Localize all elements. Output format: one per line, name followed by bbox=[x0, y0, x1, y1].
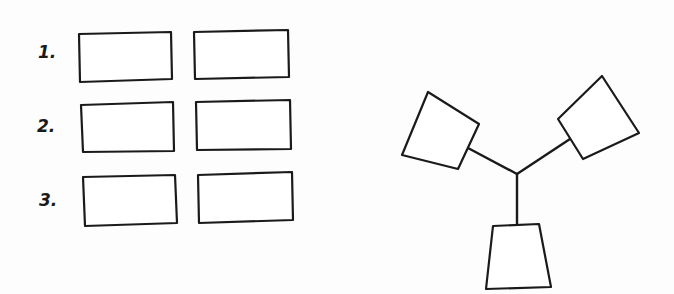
arm-left-box bbox=[402, 92, 479, 169]
grid-row-3: 3. bbox=[39, 172, 293, 226]
row-3-box-right bbox=[198, 172, 293, 223]
row-3-box-left bbox=[83, 175, 177, 226]
grid-row-2: 2. bbox=[37, 100, 291, 152]
arm-bottom-box bbox=[486, 224, 551, 289]
row-label-3: 3. bbox=[39, 190, 57, 210]
row-2-box-right bbox=[196, 100, 291, 150]
arm-right-box bbox=[558, 76, 639, 159]
diagram-canvas: 1. 2. 3. bbox=[0, 0, 674, 294]
row-1-box-left bbox=[79, 32, 172, 82]
tri-connector-figure bbox=[402, 76, 639, 289]
row-2-box-left bbox=[81, 102, 174, 152]
row-label-2: 2. bbox=[37, 116, 55, 136]
grid-row-1: 1. bbox=[38, 30, 289, 82]
row-label-1: 1. bbox=[38, 42, 56, 62]
row-1-box-right bbox=[194, 30, 289, 79]
arm-right-line bbox=[517, 139, 570, 174]
numbered-box-grid: 1. 2. 3. bbox=[37, 30, 293, 226]
arm-left-line bbox=[468, 148, 517, 174]
